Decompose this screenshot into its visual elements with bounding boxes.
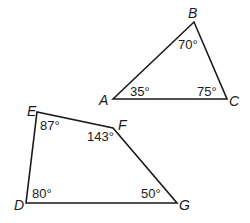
- angle-c-value: 75°: [197, 84, 217, 99]
- vertex-label-f: F: [118, 117, 128, 133]
- vertex-label-c: C: [229, 93, 240, 109]
- vertex-label-d: D: [14, 197, 24, 213]
- vertex-label-g: G: [179, 197, 190, 213]
- vertex-label-e: E: [27, 103, 37, 119]
- angle-d-value: 80°: [32, 186, 52, 201]
- angle-e-value: 87°: [40, 118, 60, 133]
- angle-a-value: 35°: [130, 84, 150, 99]
- vertex-label-b: B: [188, 5, 197, 21]
- angle-f-value: 143°: [87, 129, 114, 144]
- angle-g-value: 50°: [141, 186, 161, 201]
- angle-b-value: 70°: [178, 37, 198, 52]
- vertex-label-a: A: [98, 92, 108, 108]
- geometry-diagram: B A C 70° 35° 75° E F D G 87° 143° 80° 5…: [0, 0, 250, 223]
